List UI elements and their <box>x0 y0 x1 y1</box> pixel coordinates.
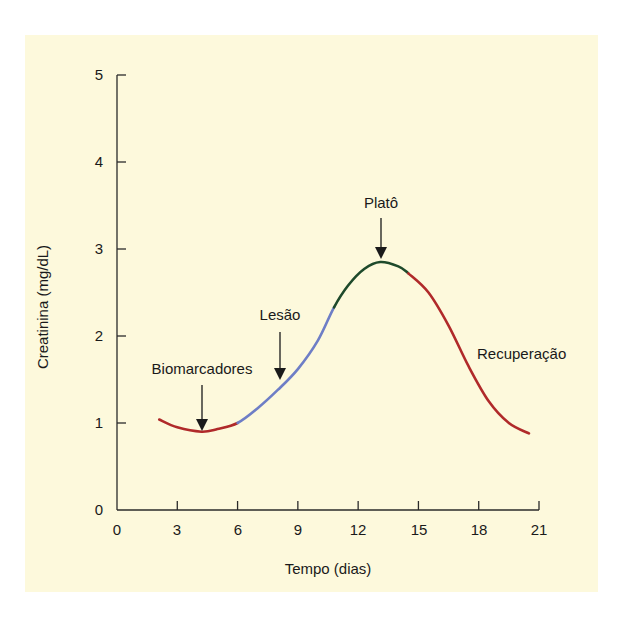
y-axis-title: Creatinina (mg/dL) <box>34 245 51 369</box>
x-tick-label: 6 <box>234 521 242 538</box>
x-axis-title: Tempo (dias) <box>285 560 372 577</box>
y-tick-label: 1 <box>95 414 103 431</box>
x-tick-label: 18 <box>471 521 488 538</box>
y-tick-label: 3 <box>95 240 103 257</box>
x-tick-label: 3 <box>173 521 181 538</box>
chart: 0 1 2 3 4 5 0 3 6 9 12 15 18 21 Tempo (d… <box>0 0 626 617</box>
x-tick-label: 21 <box>531 521 548 538</box>
y-tick-label: 4 <box>95 153 103 170</box>
annotation-lesao: Lesão <box>260 306 301 323</box>
chart-panel <box>25 35 598 592</box>
y-tick-label: 0 <box>95 501 103 518</box>
annotation-recuperacao: Recuperação <box>477 345 566 362</box>
y-tick-label: 5 <box>95 66 103 83</box>
x-tick-label: 0 <box>113 521 121 538</box>
annotation-plato: Platô <box>364 194 398 211</box>
x-tick-label: 15 <box>411 521 428 538</box>
x-tick-label: 12 <box>350 521 367 538</box>
x-tick-label: 9 <box>294 521 302 538</box>
y-tick-label: 2 <box>95 327 103 344</box>
annotation-biomarcadores: Biomarcadores <box>152 360 253 377</box>
